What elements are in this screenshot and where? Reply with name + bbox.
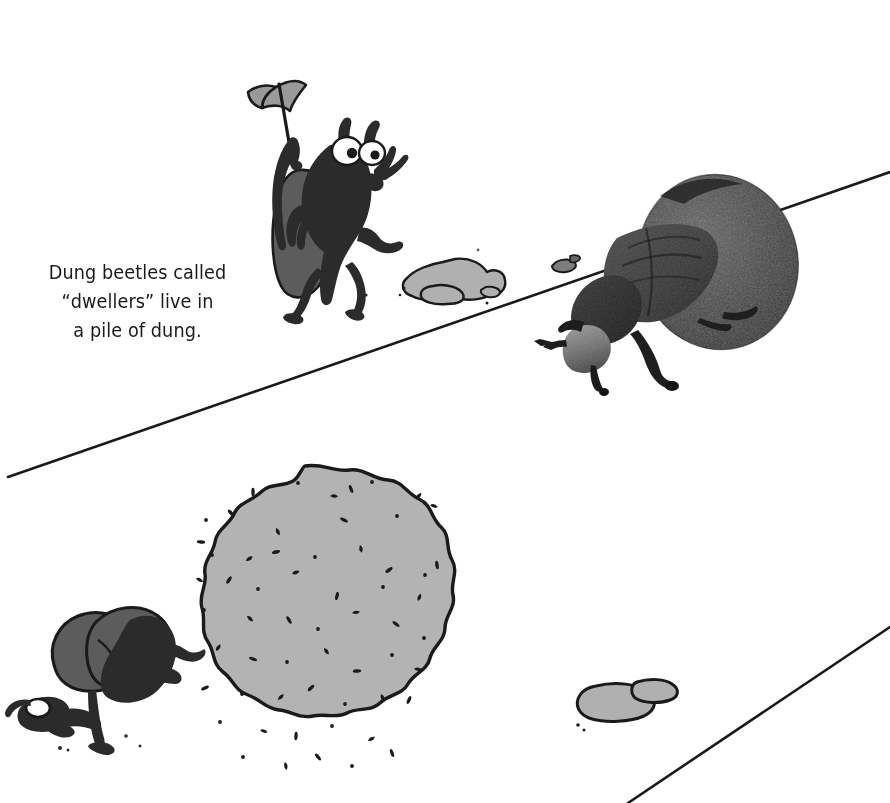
dung-speckle [422,636,426,640]
beetle-pupil-left [347,148,357,158]
dung-speckle [406,695,413,704]
photo-dung-beetle [534,159,815,396]
rock-shape [421,285,464,304]
dung-speckle [316,627,320,631]
debris-speck [124,734,128,738]
photo-beetle-leg [630,330,676,389]
dung-speckle [218,720,222,724]
debris-speck [576,723,580,727]
cartoon-beetle-with-flag [248,81,408,324]
dung-speckle [195,577,204,583]
dung-speckle [202,608,206,612]
photo-beetle-leg [558,320,584,333]
dung-speckle [294,732,298,741]
dung-speckle [210,553,214,557]
photo-beetle-tarsus [599,388,609,396]
debris-speck [583,729,586,732]
dung-speckle [389,748,395,757]
photo-beetle-tarsus [665,381,679,391]
dung-ball-outline [201,465,455,716]
caption-text: Dung beetles called “dwellers” live in a… [47,258,228,345]
debris-speck [58,746,62,750]
debris-speck [399,294,402,297]
dung-speckle [260,729,268,734]
rock-shape [632,680,678,703]
dung-speckle [197,540,206,544]
beetle-pupil-right [370,150,379,159]
beetle-foot [88,742,115,755]
dung-speckle [283,762,289,771]
dung-speckle [241,755,245,759]
beetle-leg [88,690,105,749]
illustration-canvas [0,0,890,803]
dung-speckle [240,692,244,696]
dung-speckle [285,660,289,664]
debris-speck [364,293,367,296]
beetle-leg [345,262,366,316]
dung-speckle [313,555,317,559]
dung-bit [570,255,580,262]
debris-speck [486,302,489,305]
beetle-leg [357,227,403,253]
big-dung-ball [195,465,455,770]
dung-speckle [314,753,322,762]
dung-speckle [330,724,334,728]
dung-speckle [350,764,354,768]
dung-speckle [370,480,374,484]
dung-speckle [395,514,399,518]
debris-speck [67,749,70,752]
debris-speck [139,745,142,748]
dung-speckle [390,653,394,657]
dung-speckle [256,587,260,591]
dung-speckle [200,685,209,692]
debris-speck [477,249,480,252]
lower-ground-line [628,627,890,803]
rock-shape-small [481,287,500,297]
dung-speckle [430,504,438,509]
rock-cluster-bottom [576,680,677,732]
debris-speck [402,286,405,289]
illustration-page: Dung beetles called “dwellers” live in a… [0,0,890,803]
dung-speckle [204,518,208,522]
dung-speckle [423,573,427,577]
beetle-arm [145,641,205,667]
dung-speckle [381,585,385,589]
photo-beetle-head-texture [563,325,611,373]
dung-speckle [367,735,375,743]
dung-speckle [296,481,300,485]
dung-speckle [251,488,254,496]
rock-cluster-top [399,249,506,305]
dung-speckle [343,702,347,706]
beetle-eye-left [332,137,362,165]
cartoon-beetle-pushing [5,607,206,755]
